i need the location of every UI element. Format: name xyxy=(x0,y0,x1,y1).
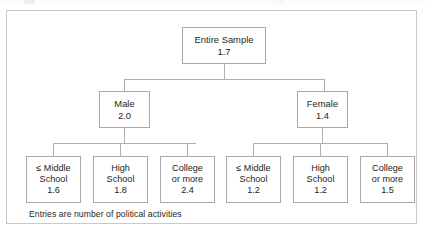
connector-male-down xyxy=(124,128,125,143)
connector-male-leaf-2-stem xyxy=(187,143,188,156)
connector-root-stem xyxy=(224,64,225,79)
node-male-middle-school-label-1: ≤ Middle xyxy=(36,163,70,174)
node-female-middle-school-value: 1.2 xyxy=(247,185,260,196)
connector-female-stem xyxy=(324,79,325,91)
figure-frame: Entire Sample 1.7 Male 2.0 Female 1.4 ≤ … xyxy=(6,10,417,224)
node-male-high-school-label-1: High xyxy=(111,163,130,174)
connector-female-down xyxy=(322,128,323,143)
node-female-high-school-value: 1.2 xyxy=(314,185,327,196)
node-male-college: College or more 2.4 xyxy=(160,156,215,203)
node-male-college-label-2: or more xyxy=(172,174,203,185)
node-female-high-school: High School 1.2 xyxy=(293,156,348,203)
node-male-middle-school-label-2: School xyxy=(40,174,68,185)
node-female-high-school-label-1: High xyxy=(311,163,330,174)
connector-male-stem xyxy=(124,79,125,91)
node-male: Male 2.0 xyxy=(99,91,150,128)
node-female-college-label-2: or more xyxy=(372,174,403,185)
node-male-value: 2.0 xyxy=(118,110,131,121)
node-female-college-label-1: College xyxy=(372,163,403,174)
node-entire-sample: Entire Sample 1.7 xyxy=(182,27,266,64)
node-male-middle-school: ≤ Middle School 1.6 xyxy=(26,156,81,203)
connector-female-leaf-2-stem xyxy=(387,143,388,156)
scan-speck-right xyxy=(278,1,284,3)
connector-female-leaf-0-stem xyxy=(253,143,254,156)
node-female-college: College or more 1.5 xyxy=(360,156,415,203)
connector-male-leaf-0-stem xyxy=(53,143,54,156)
connector-level2-bar xyxy=(124,79,325,80)
node-female-label: Female xyxy=(307,98,338,109)
node-male-college-value: 2.4 xyxy=(181,185,194,196)
node-male-label: Male xyxy=(114,98,134,109)
connector-male-branch-bar xyxy=(53,143,196,144)
scan-artifact-strip xyxy=(0,0,431,9)
node-male-middle-school-value: 1.6 xyxy=(47,185,60,196)
node-female: Female 1.4 xyxy=(297,91,348,128)
node-female-value: 1.4 xyxy=(316,110,329,121)
connector-male-leaf-1-stem xyxy=(120,143,121,156)
connector-female-leaf-1-stem xyxy=(320,143,321,156)
scan-speck-left xyxy=(24,0,35,4)
node-entire-sample-label: Entire Sample xyxy=(195,34,254,45)
node-female-middle-school-label-2: School xyxy=(240,174,268,185)
node-male-college-label-1: College xyxy=(172,163,203,174)
node-female-middle-school-label-1: ≤ Middle xyxy=(236,163,270,174)
node-male-high-school: High School 1.8 xyxy=(93,156,148,203)
node-female-high-school-label-2: School xyxy=(307,174,335,185)
node-female-college-value: 1.5 xyxy=(381,185,394,196)
node-male-high-school-label-2: School xyxy=(107,174,135,185)
node-female-middle-school: ≤ Middle School 1.2 xyxy=(226,156,281,203)
node-entire-sample-value: 1.7 xyxy=(217,46,230,57)
node-male-high-school-value: 1.8 xyxy=(114,185,127,196)
figure-note: Entries are number of political activiti… xyxy=(29,209,182,219)
